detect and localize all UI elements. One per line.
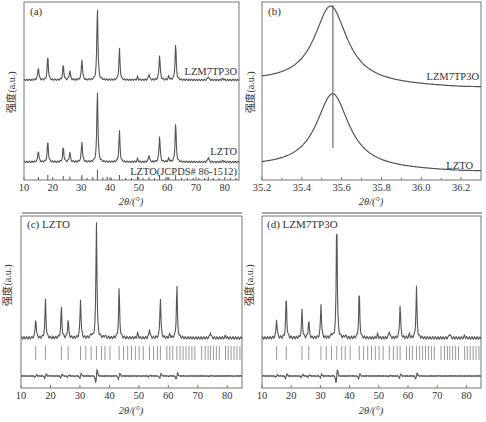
x-tick-label: 70 [191, 182, 202, 193]
panel-c-label: (c) LZTO [27, 218, 70, 231]
panel-a-label: (a) [30, 5, 43, 18]
x-tick-label: 80 [219, 182, 230, 193]
y-axis-label-b: 强度(a.u.) [244, 71, 257, 112]
x-tick-label: 20 [45, 390, 56, 401]
panel-c-frame [21, 216, 242, 388]
x-tick-label: 70 [432, 390, 443, 401]
panel-b-frame [262, 2, 481, 180]
x-tick-label: 30 [76, 182, 87, 193]
panel-c-plot [21, 222, 242, 382]
x-tick-label: 60 [163, 390, 174, 401]
difference-curve [21, 370, 242, 382]
xrd-figure: (a) (b) (c) LZTO (d) LZM7TP3O LZM7TP3O L… [0, 0, 486, 422]
x-tick-label: 35.8 [372, 182, 390, 193]
panel-b-plot [262, 5, 481, 171]
x-tick-label: 30 [315, 390, 326, 401]
x-axis-label-d: 2θ/(°) [359, 405, 384, 417]
xrd-pattern-line [262, 235, 481, 340]
x-tick-label: 30 [75, 390, 86, 401]
x-tick-label: 36.2 [452, 182, 470, 193]
x-tick-label: 10 [257, 390, 268, 401]
x-tick-label: 40 [105, 182, 116, 193]
series-label-jcpds-a: LZTO(JCPDS# 86-1512) [130, 166, 237, 178]
xrd-pattern-line [21, 222, 242, 339]
x-tick-label: 20 [47, 182, 58, 193]
x-tick-label: 40 [104, 390, 115, 401]
y-axis-label-c: 强度(a.u.) [1, 264, 14, 305]
x-tick-label: 36.0 [412, 182, 430, 193]
x-axis-label-b: 2θ/(°) [359, 196, 384, 208]
x-tick-label: 10 [16, 390, 27, 401]
x-tick-label: 35.2 [253, 182, 271, 193]
x-tick-label: 80 [222, 390, 233, 401]
x-tick-label: 10 [19, 182, 30, 193]
x-tick-label: 60 [162, 182, 173, 193]
x-tick-label: 70 [193, 390, 204, 401]
x-tick-label: 35.6 [332, 182, 350, 193]
x-axis-label-c: 2θ/(°) [119, 405, 144, 417]
panel-d-label: (d) LZM7TP3O [267, 218, 338, 231]
y-axis-label-a: 强度(a.u.) [5, 71, 18, 112]
xrd-pattern-line [24, 93, 239, 163]
x-axis-label-a: 2θ/(°) [119, 196, 144, 208]
panel-a-frame [24, 2, 239, 180]
x-tick-label: 80 [461, 390, 472, 401]
panel-a-plot [24, 10, 239, 180]
x-tick-label: 35.4 [293, 182, 312, 193]
series-label-lzm7tp3o-b: LZM7TP3O [427, 71, 480, 82]
x-tick-label: 40 [344, 390, 355, 401]
x-tick-label: 50 [374, 390, 385, 401]
panel-b-label: (b) [268, 5, 281, 18]
series-label-lzm7tp3o-a: LZM7TP3O [185, 66, 238, 77]
series-label-lzto-a: LZTO [210, 146, 237, 157]
series-label-lzto-b: LZTO [446, 160, 473, 171]
x-tick-label: 50 [134, 390, 145, 401]
panel-d-frame [262, 216, 481, 388]
difference-curve [262, 370, 481, 383]
panel-d-plot [262, 235, 481, 383]
x-tick-label: 60 [403, 390, 414, 401]
x-tick-label: 50 [133, 182, 144, 193]
x-tick-label: 20 [286, 390, 297, 401]
y-axis-label-d: 强度(a.u.) [243, 264, 256, 305]
